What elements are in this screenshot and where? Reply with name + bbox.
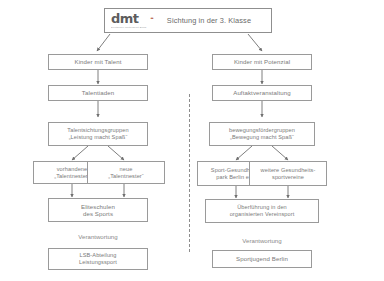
node-kinder-mit-talent: Kinder mit Talent [48, 54, 148, 70]
header-box: dmt •• Deutscher Motorsport Bund Sichtun… [104, 8, 272, 33]
node-auftaktveranstaltung: Auftaktveranstaltung [212, 85, 312, 101]
dmt-logo: dmt •• Deutscher Motorsport Bund [111, 12, 155, 29]
node-sportjugend-berlin: Sportjugend Berlin [212, 250, 312, 268]
logo-wordmark: dmt [111, 12, 138, 25]
node-kinder-mit-potenzial: Kinder mit Potenzial [212, 54, 312, 70]
node-lsb-abteilung: LSB-Abteilung Leistungssport [48, 248, 148, 270]
logo-accent-dots-icon: •• [150, 16, 153, 21]
node-talentsichtungsgruppen: Talentsichtungsgruppen „Leistung macht S… [48, 122, 148, 146]
node-bewegungsfoerdergruppen: bewegungsfördergruppen „Bewegung macht S… [209, 122, 315, 146]
left-responsibility-label: Verantwortung [48, 233, 148, 240]
node-talentiaden: Talentiaden [48, 85, 148, 101]
right-responsibility-label: Verantwortung [212, 237, 312, 244]
page-title: Sichtung in der 3. Klasse [155, 16, 271, 25]
column-divider [189, 94, 190, 252]
logo-subtext: Deutscher Motorsport Bund [111, 26, 146, 29]
node-neue-talentnester: neue „Talentnester“ [87, 161, 165, 184]
flowchart-diagram: dmt •• Deutscher Motorsport Bund Sichtun… [0, 0, 384, 281]
node-weitere-gesundheitssportvereine: weitere Gesundheits- sportvereine [249, 161, 327, 186]
node-eliteschulen-des-sports: Eliteschulen des Sports [48, 198, 148, 222]
node-ueberfuehrung-vereinsport: Überführung in den organisierten Vereins… [205, 199, 319, 223]
